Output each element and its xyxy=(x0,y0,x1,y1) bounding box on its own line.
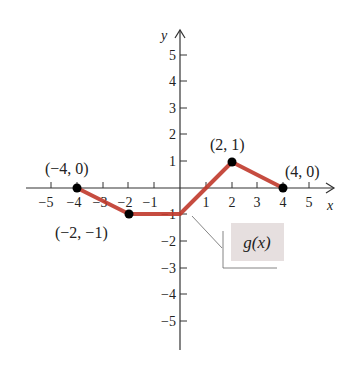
svg-text:3: 3 xyxy=(254,195,261,210)
svg-text:1: 1 xyxy=(169,154,176,169)
x-axis-label: x xyxy=(326,198,334,213)
svg-text:−5: −5 xyxy=(161,314,176,329)
svg-text:1: 1 xyxy=(203,195,210,210)
point-neg4-0 xyxy=(73,184,82,193)
svg-text:4: 4 xyxy=(280,195,287,210)
svg-text:(−2, −1): (−2, −1) xyxy=(55,224,108,242)
function-graph: −5 −4 −3 −2 −1 1 2 3 4 5 x 5 4 3 2 1 −1 … xyxy=(0,0,360,367)
svg-text:4: 4 xyxy=(169,74,176,89)
point-neg2-neg1 xyxy=(125,210,134,219)
svg-text:−4: −4 xyxy=(161,287,176,302)
legend-leader-line xyxy=(192,216,222,248)
svg-text:2: 2 xyxy=(169,127,176,142)
svg-text:(−4, 0): (−4, 0) xyxy=(45,160,89,178)
svg-text:2: 2 xyxy=(229,195,236,210)
svg-text:−4: −4 xyxy=(67,195,82,210)
svg-text:5: 5 xyxy=(169,48,176,63)
svg-text:−3: −3 xyxy=(161,261,176,276)
svg-text:−5: −5 xyxy=(39,195,54,210)
svg-text:(2, 1): (2, 1) xyxy=(210,136,245,154)
point-2-1 xyxy=(228,158,237,167)
point-4-0 xyxy=(279,184,288,193)
svg-text:−2: −2 xyxy=(161,234,176,249)
svg-text:(4, 0): (4, 0) xyxy=(285,163,320,181)
svg-text:5: 5 xyxy=(306,195,313,210)
legend-label: g(x) xyxy=(243,233,271,252)
svg-text:3: 3 xyxy=(169,101,176,116)
y-axis-label: y xyxy=(159,28,168,43)
svg-text:−1: −1 xyxy=(143,195,158,210)
